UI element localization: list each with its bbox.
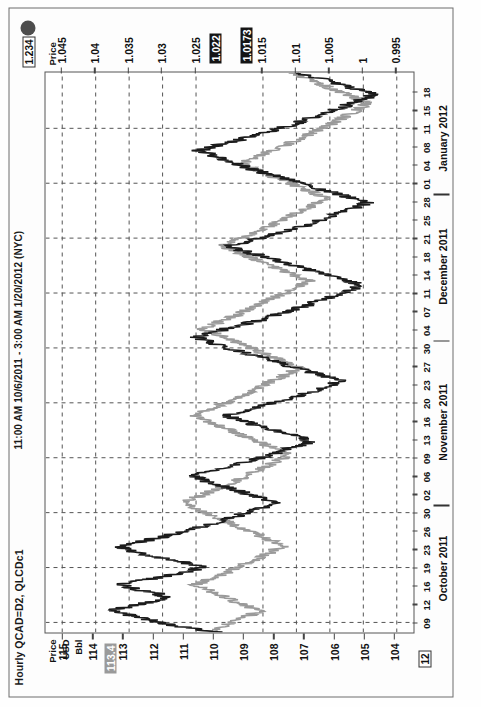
series-line-qlcdc1 [109, 72, 378, 632]
time-axis-day-label: 16 [420, 416, 431, 427]
left-axis-tick-label: 112 [147, 643, 159, 660]
time-axis-tick [412, 548, 417, 549]
left-axis-tick [393, 633, 394, 639]
time-axis: 0912161923263002060913162023273004071114… [412, 73, 456, 633]
time-axis-month-separator [433, 193, 449, 194]
time-axis-day-label: 08 [420, 142, 431, 153]
time-axis-day-label: 30 [420, 343, 431, 354]
right-axis-tick-label: 1.015 [255, 37, 267, 63]
left-axis-tick [61, 633, 62, 639]
left-axis-tick [122, 633, 123, 639]
time-axis-tick [412, 127, 417, 128]
time-axis-day-label: 04 [420, 160, 431, 171]
left-axis-tick-label: 108 [267, 643, 279, 661]
left-axis-tick [333, 633, 334, 639]
legend-dot-icon [20, 20, 35, 35]
left-axis-tick [152, 633, 153, 639]
time-axis-day-label: 18 [420, 252, 431, 263]
time-axis-tick [412, 237, 417, 238]
left-axis-tick [273, 633, 274, 639]
time-axis-tick [412, 384, 417, 385]
right-axis-tick [160, 67, 161, 73]
left-axis-tick [363, 633, 364, 639]
right-axis-tick [361, 67, 362, 73]
time-axis-tick [412, 109, 417, 110]
time-axis-day-label: 30 [420, 508, 431, 519]
time-axis-day-label: 06 [420, 471, 431, 482]
time-axis-day-label: 12 [420, 599, 431, 610]
left-axis-tick [212, 633, 213, 639]
left-axis-tick [303, 633, 304, 639]
time-axis-month-separator [433, 504, 449, 505]
chart-subtitle: 11:00 AM 10/6/2011 - 3:00 AM 1/20/2012 (… [12, 230, 23, 449]
left-axis-tick-label: 113 [116, 643, 128, 660]
time-axis-tick [412, 91, 417, 92]
right-axis-tick [194, 67, 195, 73]
right-axis-tick-label: 1.045 [55, 37, 67, 63]
right-axis-tick [60, 67, 61, 73]
time-axis-tick [412, 310, 417, 311]
right-axis-tick-label: 0.995 [389, 37, 401, 63]
time-axis-tick [412, 182, 417, 183]
left-axis-tick-label: 105 [358, 643, 370, 661]
time-axis-tick [412, 256, 417, 257]
right-axis-tick-label: 1.025 [189, 37, 201, 63]
right-price-axis: Price1.0451.041.0351.031.0251.0151.011.0… [44, 0, 412, 73]
left-axis-tick-label: 104 [388, 643, 400, 661]
time-axis-day-label: 28 [420, 197, 431, 208]
right-axis-current-value-1: 1.0173 [240, 27, 252, 63]
right-axis-tick-label: 1.035 [122, 37, 134, 63]
time-axis-day-label: 25 [420, 215, 431, 226]
screenshot-frame: Hourly QCAD=D2, QLCDc1 11:00 AM 10/6/201… [0, 0, 481, 707]
right-axis-corner-tag[interactable]: 1.234 [22, 36, 35, 67]
right-axis-tick [294, 67, 295, 73]
plot-svg [45, 72, 413, 632]
right-axis-tick [93, 67, 94, 73]
time-axis-day-label: 11 [420, 289, 431, 299]
left-axis-tick [92, 633, 93, 639]
right-axis-tick [395, 67, 396, 73]
chart-page: Hourly QCAD=D2, QLCDc1 11:00 AM 10/6/201… [0, 0, 481, 707]
time-axis-day-label: 13 [420, 435, 431, 446]
time-axis-month-label: October 2011 [436, 535, 448, 601]
time-axis-tick [412, 567, 417, 568]
chart-title: Hourly QCAD=D2, QLCDc1 [12, 549, 24, 685]
time-axis-tick [412, 622, 417, 623]
right-axis-tick [261, 67, 262, 73]
left-axis-header-0: Price [46, 639, 57, 662]
time-axis-day-label: 19 [420, 563, 431, 574]
time-axis-tick [412, 530, 417, 531]
left-price-axis: PriceUSDBbl10410510610710810911011111211… [44, 633, 412, 707]
time-axis-tick [412, 164, 417, 165]
time-axis-month-label: November 2011 [436, 383, 448, 460]
right-axis-tick-label: 1.005 [322, 37, 334, 63]
time-axis-month-label: December 2011 [436, 228, 448, 304]
time-axis-tick [412, 493, 417, 494]
left-axis-tick-label: 106 [328, 643, 340, 661]
time-axis-day-label: 23 [420, 544, 431, 555]
plot-area[interactable] [44, 71, 414, 633]
time-axis-tick [412, 219, 417, 220]
time-axis-tick [412, 585, 417, 586]
time-axis-tick [412, 292, 417, 293]
time-axis-day-label: 20 [420, 398, 431, 409]
time-axis-tick [412, 475, 417, 476]
time-axis-day-label: 01 [420, 178, 431, 189]
time-axis-day-label: 07 [420, 307, 431, 318]
time-axis-day-label: 16 [420, 581, 431, 592]
left-axis-current-value: 113.4 [104, 643, 116, 673]
time-axis-tick [412, 146, 417, 147]
left-axis-corner-tag[interactable]: 12 [418, 650, 431, 667]
time-axis-day-label: 09 [420, 618, 431, 629]
time-axis-tick [412, 201, 417, 202]
time-axis-month-label: January 2012 [436, 105, 448, 172]
time-axis-tick [412, 329, 417, 330]
left-axis-tick-label: 115 [56, 643, 68, 660]
time-axis-tick [412, 420, 417, 421]
right-axis-tick-label: 1.04 [88, 43, 100, 63]
time-axis-tick [412, 402, 417, 403]
right-axis-current-value-0: 1.022 [209, 33, 221, 63]
time-axis-tick [412, 347, 417, 348]
left-axis-tick-label: 107 [297, 643, 309, 661]
left-axis-header-2: Bbl [72, 639, 83, 654]
